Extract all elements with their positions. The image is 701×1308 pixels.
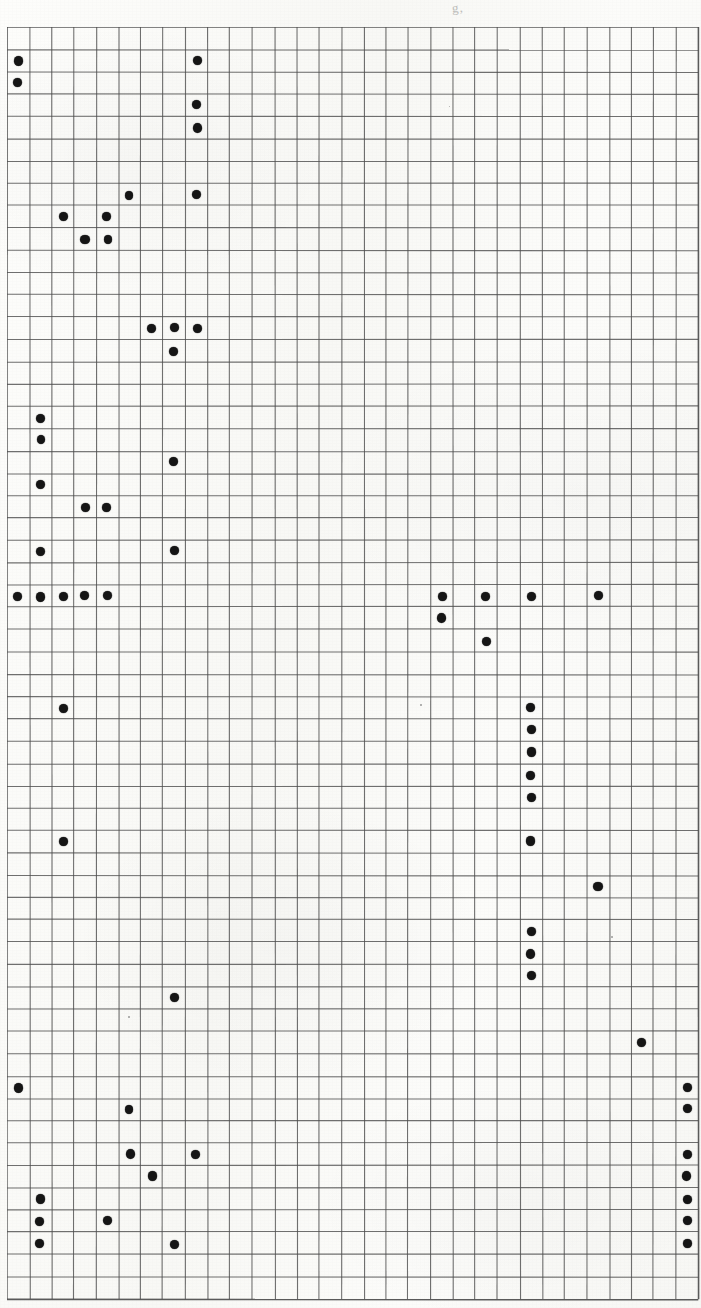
data-point xyxy=(13,78,22,87)
paper-speck xyxy=(420,704,422,706)
data-point xyxy=(81,503,90,512)
data-point xyxy=(169,457,178,466)
grid-lines-svg xyxy=(7,27,701,1302)
data-point xyxy=(36,480,45,489)
paper-speck xyxy=(128,1016,130,1018)
data-point xyxy=(59,592,68,601)
data-point xyxy=(682,1171,691,1181)
data-point xyxy=(193,324,202,333)
data-point xyxy=(126,1149,135,1159)
data-point xyxy=(35,1217,44,1226)
data-point xyxy=(437,613,446,623)
data-point xyxy=(527,793,536,802)
data-point xyxy=(13,592,22,601)
data-point xyxy=(14,1083,23,1093)
data-point xyxy=(102,212,111,222)
data-point xyxy=(482,637,491,646)
data-point xyxy=(80,235,89,244)
data-point xyxy=(125,1105,134,1114)
data-point xyxy=(593,882,602,891)
data-point xyxy=(526,836,535,845)
data-point xyxy=(59,212,68,221)
data-point xyxy=(125,191,134,200)
data-point xyxy=(36,547,45,556)
data-point xyxy=(527,971,536,980)
data-point xyxy=(683,1239,692,1249)
data-point xyxy=(594,591,603,600)
graph-paper-grid xyxy=(7,27,698,1299)
data-point xyxy=(170,993,179,1002)
data-point xyxy=(527,725,536,735)
paper-speck xyxy=(611,936,613,938)
data-point xyxy=(527,747,536,756)
data-point xyxy=(59,704,68,713)
data-point xyxy=(683,1195,692,1204)
data-point xyxy=(170,1240,179,1249)
data-point xyxy=(169,347,178,356)
data-point xyxy=(527,592,536,601)
data-point xyxy=(193,56,202,65)
data-point xyxy=(438,592,447,602)
data-point xyxy=(193,123,202,133)
data-point xyxy=(526,771,535,780)
data-point xyxy=(36,592,45,602)
data-point xyxy=(36,414,45,423)
data-point xyxy=(683,1150,692,1159)
data-point xyxy=(147,324,156,333)
data-point xyxy=(526,949,535,959)
data-point xyxy=(36,1194,45,1203)
data-point xyxy=(102,503,111,513)
data-point xyxy=(80,591,89,600)
data-point xyxy=(148,1171,157,1180)
data-point xyxy=(14,56,23,66)
data-point xyxy=(527,927,536,936)
data-point xyxy=(59,837,68,847)
